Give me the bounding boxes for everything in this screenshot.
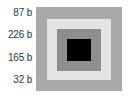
label-226b: 226 b xyxy=(8,29,32,41)
label-165b: 165 b xyxy=(8,52,32,64)
label-87b: 87 b xyxy=(13,7,32,19)
inner-square xyxy=(67,39,91,61)
label-32b: 32 b xyxy=(13,74,32,86)
